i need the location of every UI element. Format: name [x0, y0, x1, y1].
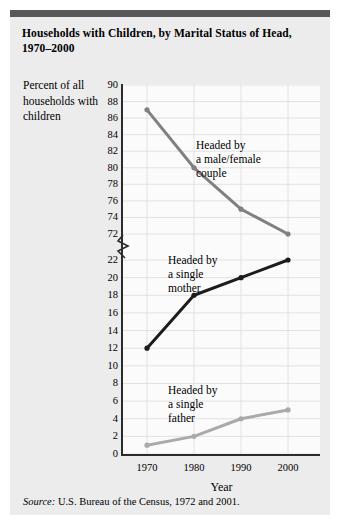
figure-panel: Households with Children, by Marital Sta…: [10, 10, 330, 515]
data-point: [144, 443, 149, 448]
chart-title: Households with Children, by Marital Sta…: [22, 26, 320, 56]
y-axis-tick: 16: [82, 308, 118, 319]
data-point: [144, 107, 149, 112]
figure-top-rule: [10, 10, 330, 17]
x-axis-label: Year: [123, 480, 320, 495]
y-axis-tick: 78: [82, 179, 118, 190]
data-point: [238, 416, 243, 421]
x-axis-tick: 1980: [174, 462, 214, 473]
y-axis-tick-labels: 908886848280787674722220181614121086420: [82, 10, 118, 525]
y-axis-tick: 82: [82, 146, 118, 157]
annotation-mother: Headed by a single mother: [168, 253, 218, 295]
y-axis-tick: 8: [82, 378, 118, 389]
y-axis-tick: 10: [82, 361, 118, 372]
y-axis-tick: 18: [82, 290, 118, 301]
y-axis-tick: 6: [82, 396, 118, 407]
x-axis-tick: 1990: [221, 462, 261, 473]
y-axis-tick: 2: [82, 431, 118, 442]
data-point: [144, 346, 149, 351]
y-axis-tick: 72: [82, 229, 118, 240]
data-point: [238, 207, 243, 212]
source-note: Source: U.S. Bureau of the Census, 1972 …: [23, 496, 240, 507]
y-axis-tick: 76: [82, 196, 118, 207]
y-axis-tick: 80: [82, 163, 118, 174]
y-axis-tick: 22: [82, 255, 118, 266]
x-axis-tick: 2000: [268, 462, 308, 473]
y-axis-tick: 90: [82, 80, 118, 91]
source-label: Source:: [23, 496, 55, 507]
y-axis-tick: 88: [82, 97, 118, 108]
y-axis-tick: 74: [82, 212, 118, 223]
data-point: [285, 407, 290, 412]
data-point: [238, 275, 243, 280]
data-point: [191, 434, 196, 439]
y-axis-tick: 0: [82, 449, 118, 460]
annotation-father: Headed by a single father: [168, 383, 218, 425]
y-axis-tick: 84: [82, 130, 118, 141]
y-axis-tick: 86: [82, 113, 118, 124]
y-axis-tick: 14: [82, 326, 118, 337]
data-point: [285, 257, 290, 262]
source-text: U.S. Bureau of the Census, 1972 and 2001…: [55, 496, 239, 507]
axis-break-icon: [114, 234, 132, 260]
x-axis-line: [121, 454, 320, 456]
annotation-couple: Headed by a male/female couple: [196, 138, 261, 180]
y-axis-line: [121, 84, 123, 455]
y-axis-tick: 20: [82, 273, 118, 284]
y-axis-tick: 4: [82, 414, 118, 425]
data-point: [285, 231, 290, 236]
x-axis-tick: 1970: [127, 462, 167, 473]
y-axis-tick: 12: [82, 343, 118, 354]
